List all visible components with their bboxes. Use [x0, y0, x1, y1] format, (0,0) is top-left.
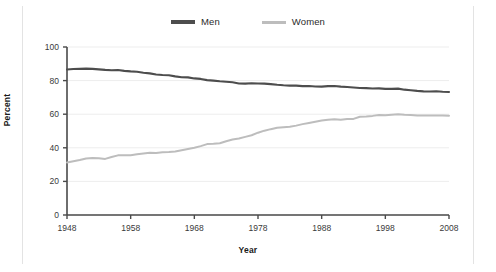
x-axis-ticks-group: 1948195819681978198819982008 [58, 215, 459, 233]
line-chart-svg: 020406080100 194819581968197819881998200… [0, 0, 496, 272]
plot-area-wrapper: 020406080100 194819581968197819881998200… [0, 0, 496, 272]
gridlines-group [67, 47, 449, 215]
y-tick-label-80: 80 [50, 76, 60, 86]
x-tick-label-1958: 1958 [121, 223, 140, 233]
series-line-women [67, 114, 449, 162]
x-tick-label-2008: 2008 [440, 223, 459, 233]
y-tick-label-40: 40 [50, 143, 60, 153]
y-tick-label-20: 20 [50, 176, 60, 186]
chart-figure: Men Women 020406080100 19481958196819781… [0, 0, 496, 272]
x-tick-label-1988: 1988 [312, 223, 331, 233]
y-axis-title: Percent [2, 80, 12, 140]
y-axis-ticks-group: 020406080100 [45, 42, 67, 220]
y-tick-label-60: 60 [50, 109, 60, 119]
x-tick-label-1948: 1948 [58, 223, 77, 233]
x-tick-label-1968: 1968 [185, 223, 204, 233]
x-tick-label-1978: 1978 [249, 223, 268, 233]
y-tick-label-100: 100 [45, 42, 59, 52]
x-axis-title: Year [0, 245, 496, 255]
y-tick-label-0: 0 [54, 210, 59, 220]
x-tick-label-1998: 1998 [376, 223, 395, 233]
